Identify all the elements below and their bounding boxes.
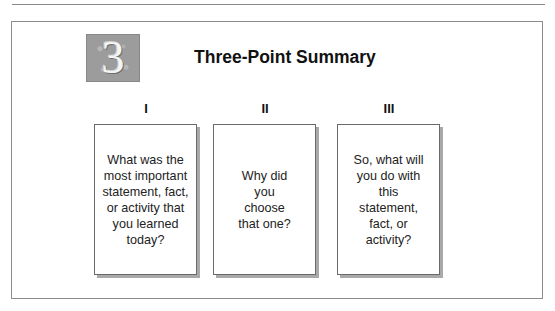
column-numeral-2: II (245, 101, 285, 116)
summary-card-1: What was the most important statement, f… (94, 124, 197, 275)
summary-card-2: Why did you choose that one? (213, 124, 316, 275)
column-numeral-1: I (126, 101, 166, 116)
card-prompt: So, what will you do with this statement… (344, 152, 433, 248)
summary-card-3: So, what will you do with this statement… (337, 124, 440, 275)
card-prompt: Why did you choose that one? (220, 168, 309, 232)
icon-number: 3 (102, 35, 125, 81)
top-rule (12, 4, 545, 5)
page-title: Three-Point Summary (194, 47, 376, 68)
number-three-icon: 3 (86, 34, 140, 82)
card-prompt: What was the most important statement, f… (101, 152, 190, 248)
column-numeral-3: III (369, 101, 409, 116)
